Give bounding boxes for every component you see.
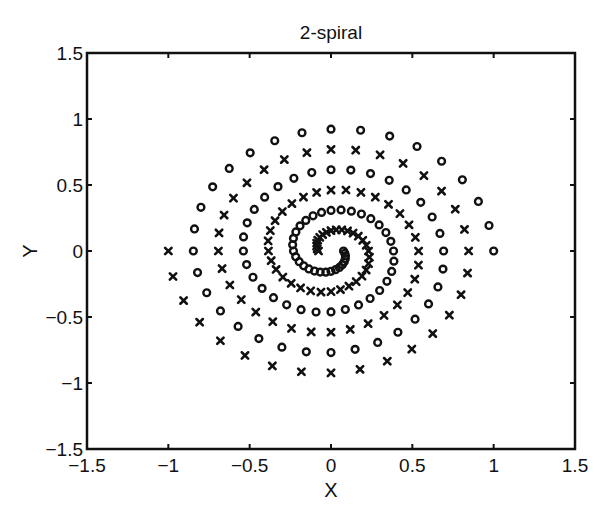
marker-x: [347, 326, 353, 332]
marker-x: [280, 274, 286, 280]
marker-x: [304, 149, 310, 155]
marker-x: [328, 146, 334, 152]
marker-x: [384, 358, 390, 364]
marker-x: [412, 234, 418, 240]
marker-o: [386, 133, 393, 140]
marker-o: [313, 309, 320, 316]
scatter-markers: [165, 126, 497, 376]
marker-o: [303, 348, 310, 355]
marker-o: [255, 335, 262, 342]
marker-o: [440, 248, 447, 255]
marker-o: [376, 222, 383, 229]
marker-o: [383, 229, 390, 236]
marker-o: [486, 222, 493, 229]
marker-x: [288, 280, 294, 286]
marker-o: [367, 295, 374, 302]
marker-x: [268, 257, 274, 263]
marker-x: [219, 265, 225, 271]
y-tick-label: −0.5: [45, 307, 83, 328]
marker-o: [190, 248, 197, 255]
marker-x: [446, 312, 452, 318]
marker-o: [435, 284, 442, 291]
marker-x: [461, 226, 467, 232]
marker-x: [265, 238, 271, 244]
marker-o: [395, 329, 402, 336]
marker-o: [417, 199, 424, 206]
marker-o: [247, 149, 254, 156]
marker-x: [318, 289, 324, 295]
marker-x: [261, 167, 267, 173]
marker-o: [310, 212, 317, 219]
x-tick-label: −0.5: [231, 455, 269, 476]
marker-x: [297, 285, 303, 291]
marker-x: [465, 248, 471, 254]
marker-x: [308, 329, 314, 335]
marker-x: [385, 201, 391, 207]
marker-x: [267, 227, 273, 233]
marker-x: [328, 329, 334, 335]
marker-o: [328, 166, 335, 173]
marker-o: [390, 248, 397, 255]
marker-x: [458, 292, 464, 298]
x-tick-label: 1.5: [562, 455, 588, 476]
marker-x: [430, 330, 436, 336]
marker-o: [270, 294, 277, 301]
y-axis-ticks: −1.5−1−0.500.511.5: [45, 43, 575, 460]
marker-x: [221, 212, 227, 218]
marker-x: [415, 262, 421, 268]
marker-x: [406, 222, 412, 228]
x-axis-ticks: −1.5−1−0.500.511.5: [68, 53, 588, 476]
marker-o: [275, 183, 282, 190]
marker-o: [217, 308, 224, 315]
marker-o: [318, 209, 325, 216]
marker-o: [358, 211, 365, 218]
marker-o: [412, 316, 419, 323]
marker-o: [347, 167, 354, 174]
marker-x: [270, 319, 276, 325]
marker-x: [328, 370, 334, 376]
marker-o: [250, 274, 257, 281]
marker-o: [414, 143, 421, 150]
marker-o: [328, 349, 335, 356]
marker-o: [388, 268, 395, 275]
marker-x: [165, 248, 171, 254]
marker-x: [244, 180, 250, 186]
marker-o: [390, 258, 397, 265]
marker-x: [377, 152, 383, 158]
marker-x: [328, 288, 334, 294]
marker-x: [409, 346, 415, 352]
marker-o: [308, 169, 315, 176]
marker-x: [230, 195, 236, 201]
marker-x: [307, 288, 313, 294]
x-tick-label: 0: [326, 455, 337, 476]
y-tick-label: 0: [72, 241, 83, 262]
marker-o: [235, 323, 242, 330]
marker-x: [405, 289, 411, 295]
marker-o: [386, 177, 393, 184]
y-tick-label: 0.5: [57, 175, 83, 196]
marker-o: [357, 127, 364, 134]
marker-x: [343, 187, 349, 193]
marker-o: [261, 194, 268, 201]
marker-o: [437, 230, 444, 237]
marker-o: [342, 306, 349, 313]
marker-x: [313, 189, 319, 195]
marker-x: [242, 352, 248, 358]
marker-x: [372, 194, 378, 200]
marker-o: [490, 248, 497, 255]
x-tick-label: −1: [157, 455, 179, 476]
marker-x: [412, 276, 418, 282]
marker-x: [170, 273, 176, 279]
marker-o: [203, 289, 210, 296]
chart-title: 2-spiral: [300, 22, 362, 43]
marker-x: [281, 156, 287, 162]
marker-o: [283, 301, 290, 308]
marker-x: [365, 321, 371, 327]
plot-frame: [87, 53, 575, 449]
marker-o: [328, 207, 335, 214]
marker-x: [215, 248, 221, 254]
marker-x: [216, 230, 222, 236]
marker-o: [240, 248, 247, 255]
marker-x: [438, 188, 444, 194]
marker-o: [403, 187, 410, 194]
